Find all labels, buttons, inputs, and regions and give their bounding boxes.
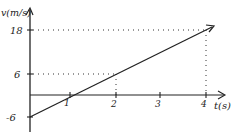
- x-label-2: 2: [110, 99, 117, 109]
- velocity-line: [30, 27, 212, 117]
- velocity-time-graph: v(m/s) 18 6 -6 1 2 3 4 t(s): [0, 0, 240, 140]
- y-label-18: 18: [10, 25, 23, 36]
- y-label-neg6: -6: [6, 112, 16, 123]
- x-label-1: 1: [64, 98, 70, 108]
- x-label-4: 4: [200, 99, 207, 109]
- y-label-6: 6: [14, 69, 21, 80]
- x-label-3: 3: [155, 99, 161, 109]
- y-axis-label: v(m/s): [1, 7, 31, 18]
- x-axis-label: t(s): [214, 100, 231, 111]
